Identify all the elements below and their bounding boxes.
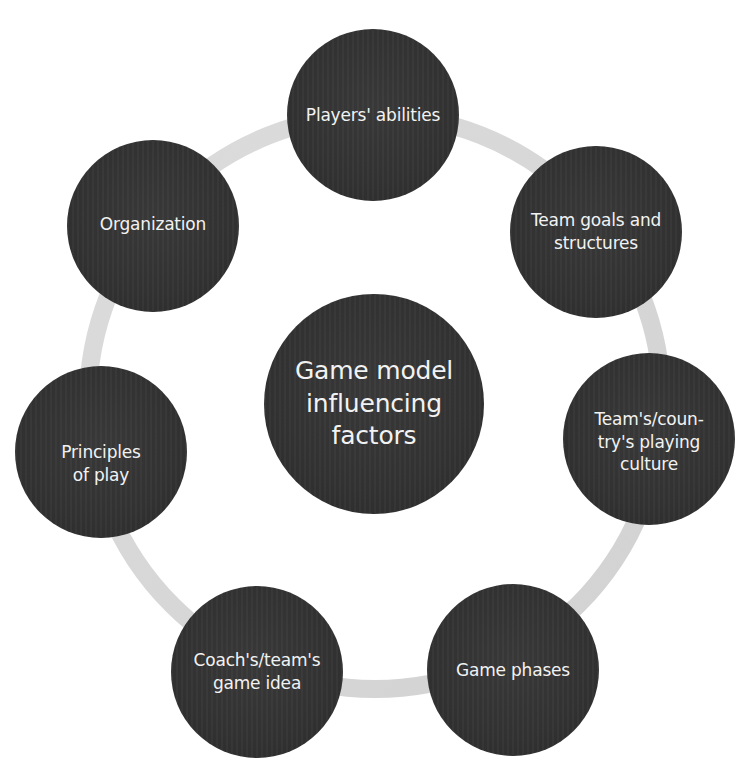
node-players-abilities: Players' abilities bbox=[287, 29, 459, 201]
node-line: Coach's/team's bbox=[194, 649, 321, 672]
node-line: of play bbox=[61, 464, 140, 487]
node-line: Team's/coun- bbox=[594, 408, 703, 431]
node-team-goals: Team goals and structures bbox=[510, 146, 682, 318]
node-label: Game phases bbox=[448, 659, 578, 682]
center-hub: Game model influencing factors bbox=[264, 294, 484, 514]
diagram: Game model influencing factors Players' … bbox=[0, 0, 747, 776]
center-hub-label: Game model influencing factors bbox=[287, 355, 461, 453]
node-label: Principles of play bbox=[53, 417, 148, 487]
node-label: Team goals and structures bbox=[523, 209, 669, 255]
node-line: Team goals and bbox=[531, 209, 661, 232]
node-line: game idea bbox=[194, 672, 321, 695]
node-label: Organization bbox=[92, 213, 214, 240]
node-playing-culture: Team's/coun- try's playing culture bbox=[563, 353, 735, 525]
node-line: culture bbox=[594, 453, 703, 476]
node-label: Team's/coun- try's playing culture bbox=[586, 402, 711, 477]
node-line: Principles bbox=[61, 441, 140, 464]
node-line: try's playing bbox=[594, 431, 703, 454]
center-line-3: factors bbox=[295, 420, 453, 453]
center-line-1: Game model bbox=[295, 355, 453, 388]
node-coach-game-idea: Coach's/team's game idea bbox=[171, 586, 343, 758]
node-line: structures bbox=[531, 232, 661, 255]
node-principles-of-play: Principles of play bbox=[15, 366, 187, 538]
center-line-2: influencing bbox=[295, 388, 453, 421]
node-line: Game phases bbox=[456, 659, 570, 682]
node-game-phases: Game phases bbox=[427, 584, 599, 756]
node-line: Players' abilities bbox=[306, 104, 440, 127]
node-line: Organization bbox=[100, 213, 206, 236]
node-label: Players' abilities bbox=[298, 104, 448, 127]
node-label: Coach's/team's game idea bbox=[186, 649, 329, 695]
node-organization: Organization bbox=[67, 140, 239, 312]
